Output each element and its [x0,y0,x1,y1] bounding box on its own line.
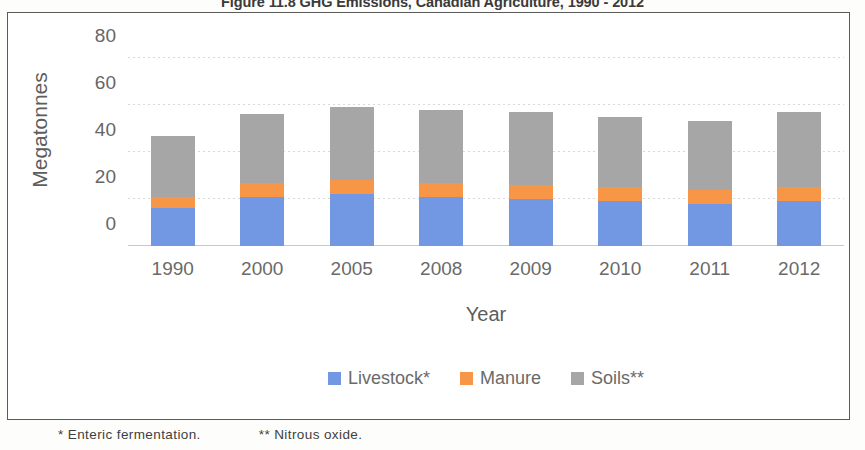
bar-series-container: 19902000200520082009201020112012 [128,58,844,246]
bar-group[interactable]: 2005 [307,58,397,246]
x-axis-tick-label: 2005 [331,258,373,280]
bar-segment-livestock[interactable] [330,194,374,246]
bar-segment-manure[interactable] [330,180,374,194]
chart-frame: Megatonnes 020406080 1990200020052008200… [7,12,850,420]
bar-segment-soils[interactable] [240,114,284,182]
bar-group[interactable]: 2010 [576,58,666,246]
plot-area: 020406080 199020002005200820092010201120… [128,58,844,246]
bar-segment-livestock[interactable] [509,199,553,246]
bar-segment-manure[interactable] [419,183,463,197]
bar-group[interactable]: 2011 [665,58,755,246]
bar-segment-soils[interactable] [330,107,374,180]
bar-segment-manure[interactable] [151,197,195,209]
x-axis-title: Year [128,303,844,326]
y-axis-tick-label: 20 [95,166,116,188]
x-axis-tick-label: 2009 [510,258,552,280]
x-axis-tick-label: 2010 [599,258,641,280]
bar-group[interactable]: 2012 [755,58,845,246]
bar-segment-soils[interactable] [419,110,463,183]
footnote-nitrous-oxide: ** Nitrous oxide. [259,427,363,442]
chart-legend: Livestock*ManureSoils** [128,368,844,389]
footnotes: * Enteric fermentation. ** Nitrous oxide… [58,427,362,442]
legend-item-livestock[interactable]: Livestock* [328,368,430,389]
y-axis-title: Megatonnes [28,40,52,220]
legend-label: Manure [480,368,541,389]
bar-group[interactable]: 1990 [128,58,218,246]
bar-group[interactable]: 2000 [218,58,308,246]
footnote-enteric-fermentation: * Enteric fermentation. [58,427,201,442]
legend-swatch-icon [571,372,584,385]
x-axis-tick-label: 2000 [241,258,283,280]
stacked-bar[interactable] [688,121,732,246]
bar-segment-soils[interactable] [509,112,553,185]
bar-segment-livestock[interactable] [419,197,463,246]
y-axis-tick-label: 40 [95,119,116,141]
bar-segment-manure[interactable] [240,183,284,197]
x-axis-tick-label: 2012 [778,258,820,280]
legend-item-manure[interactable]: Manure [460,368,541,389]
y-axis-tick-label: 60 [95,72,116,94]
bar-segment-livestock[interactable] [151,208,195,246]
bar-segment-soils[interactable] [777,112,821,187]
stacked-bar[interactable] [240,114,284,246]
stacked-bar[interactable] [598,117,642,246]
legend-swatch-icon [328,372,341,385]
stacked-bar[interactable] [330,107,374,246]
bar-segment-livestock[interactable] [688,204,732,246]
bar-segment-manure[interactable] [509,185,553,199]
x-axis-tick-label: 2011 [689,258,730,280]
chart-title: Figure 11.8 GHG Emissions, Canadian Agri… [0,0,865,10]
bar-segment-soils[interactable] [151,136,195,197]
bar-segment-livestock[interactable] [240,197,284,246]
stacked-bar[interactable] [419,110,463,246]
y-axis-tick-label: 80 [95,25,116,47]
stacked-bar[interactable] [777,112,821,246]
bar-segment-manure[interactable] [688,190,732,204]
bar-group[interactable]: 2008 [397,58,487,246]
x-axis-tick-label: 1990 [152,258,194,280]
bar-segment-manure[interactable] [598,187,642,201]
stacked-bar[interactable] [509,112,553,246]
legend-label: Livestock* [348,368,430,389]
legend-label: Soils** [591,368,644,389]
bar-segment-livestock[interactable] [598,201,642,246]
bar-segment-livestock[interactable] [777,201,821,246]
bar-segment-soils[interactable] [598,117,642,188]
y-axis-tick-label: 0 [105,213,116,235]
bar-segment-manure[interactable] [777,187,821,201]
legend-swatch-icon [460,372,473,385]
legend-item-soils[interactable]: Soils** [571,368,644,389]
bar-segment-soils[interactable] [688,121,732,189]
stacked-bar[interactable] [151,136,195,246]
bar-group[interactable]: 2009 [486,58,576,246]
x-axis-tick-label: 2008 [420,258,462,280]
